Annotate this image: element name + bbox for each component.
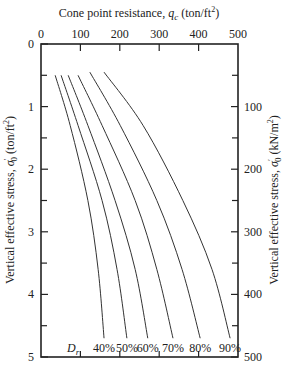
left-y-tick-label: 0 [28, 37, 34, 51]
right-y-tick-label: 500 [244, 350, 262, 364]
right-y-tick-label: 300 [244, 225, 262, 239]
dr-curve-80 [90, 72, 200, 338]
left-y-tick-label: 1 [28, 100, 34, 114]
plot-frame [41, 44, 238, 357]
left-y-tick-label: 2 [28, 162, 34, 176]
right-y-axis-title: Vertical effective stress, σ′0 (kN/m2) [266, 115, 283, 284]
left-y-tick-labels: 012345 [28, 37, 34, 364]
dr-curve-70 [78, 75, 173, 338]
dr-legend-label: Dr [66, 341, 80, 357]
dr-labels: 40%50%60%70%80%90% [93, 341, 241, 355]
x-tick-label: 500 [229, 27, 247, 41]
dr-curve-label: 40% [93, 341, 115, 355]
ticks [41, 44, 238, 357]
x-tick-label: 400 [190, 27, 208, 41]
left-y-axis-title: Vertical effective stress, σ′0 (ton/ft2) [2, 116, 19, 284]
left-y-tick-label: 4 [28, 287, 34, 301]
x-tick-label: 300 [150, 27, 168, 41]
right-y-tick-label: 200 [244, 162, 262, 176]
x-tick-label: 200 [111, 27, 129, 41]
x-tick-labels: 0100200300400500 [38, 27, 247, 41]
right-y-tick-labels: 100200300400500 [244, 100, 262, 364]
right-y-tick-label: 400 [244, 287, 262, 301]
curves [55, 72, 230, 338]
left-y-tick-label: 5 [28, 350, 34, 364]
dr-curve-label: 80% [189, 341, 211, 355]
cpt-relative-density-chart: Cone point resistance, qc (ton/ft2) 0100… [0, 0, 290, 380]
right-y-tick-label: 100 [244, 100, 262, 114]
dr-curve-90 [104, 72, 230, 338]
x-axis-title: Cone point resistance, qc (ton/ft2) [59, 5, 219, 22]
dr-curve-label: 70% [162, 341, 184, 355]
left-y-tick-label: 3 [28, 225, 34, 239]
dr-curve-label: 50% [116, 341, 138, 355]
x-tick-label: 100 [71, 27, 89, 41]
dr-curve-label: 90% [219, 341, 241, 355]
x-tick-label: 0 [38, 27, 44, 41]
dr-curve-label: 60% [137, 341, 159, 355]
